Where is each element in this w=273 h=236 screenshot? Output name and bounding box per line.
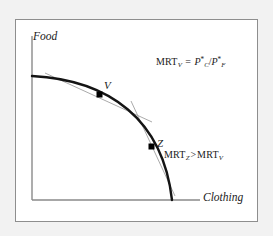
mrt-v-text: MRT [156,56,178,67]
x-axis-label: Clothing [203,192,243,204]
point-label-v: V [104,80,111,91]
price-food-subscript: F [221,61,225,68]
mrt-z-subscript: Z [186,154,190,161]
equals-sign: = [184,56,192,67]
mrt-v-subscript: V [178,61,182,68]
figure-root: Food Clothing V Z MRTV = P*C/P*F MRTZ>MR… [0,0,273,236]
mrt-v-compare-text: MRT [197,149,219,160]
mrt-v-formula: MRTV = P*C/P*F [156,57,225,67]
point-marker-z [149,144,155,150]
point-marker-v [97,92,103,98]
mrt-v-compare-subscript: V [219,154,223,161]
price-clothing-symbol: P [194,56,200,67]
mrt-z-text: MRT [164,149,186,160]
price-food-symbol: P [212,56,218,67]
mrt-comparison-formula: MRTZ>MRTV [164,150,223,160]
greater-than-sign: > [189,149,197,160]
y-axis-label: Food [33,31,57,43]
point-label-z: Z [157,138,163,149]
price-clothing-subscript: C [204,61,209,68]
